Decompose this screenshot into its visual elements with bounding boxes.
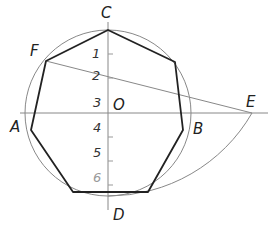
- label-c: C: [101, 4, 112, 22]
- division-2: 2: [92, 68, 100, 83]
- label-b: B: [193, 120, 203, 138]
- division-4: 4: [93, 120, 101, 135]
- label-d: D: [113, 206, 125, 224]
- heptagon-construction-diagram: C F A B E D O 1 2 3 4 5 6: [0, 0, 276, 227]
- label-a: A: [9, 118, 20, 136]
- line-f-to-e: [46, 61, 252, 113]
- division-1: 1: [92, 46, 100, 61]
- label-o: O: [113, 96, 125, 114]
- label-e: E: [246, 93, 256, 111]
- division-6: 6: [93, 170, 101, 185]
- heptagon: [31, 30, 183, 192]
- division-5: 5: [93, 145, 101, 160]
- division-3: 3: [93, 95, 101, 110]
- division-ticks: [108, 54, 113, 185]
- label-f: F: [30, 42, 39, 60]
